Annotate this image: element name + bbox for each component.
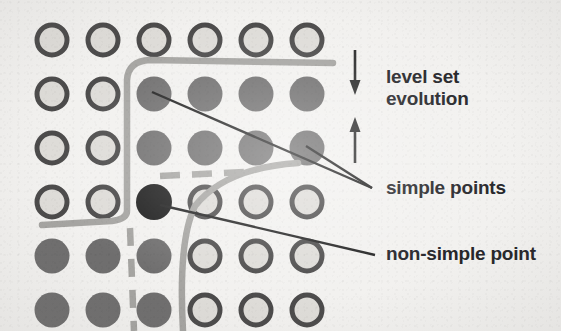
arrow-down-icon — [350, 50, 361, 95]
grid-point-open — [88, 187, 118, 217]
grid-point-filled — [137, 239, 172, 274]
grid-point-filled — [188, 77, 223, 112]
grid-point-open — [292, 241, 322, 271]
grid-point-nonsimple — [136, 184, 172, 220]
grid-point-open — [241, 241, 271, 271]
grid-point-open — [88, 133, 118, 163]
grid-point-open — [241, 187, 271, 217]
grid-point-filled — [86, 239, 121, 274]
grid-point-open — [139, 25, 169, 55]
grid-point-open — [292, 187, 322, 217]
label-simple-points: simple points — [386, 177, 506, 199]
leader-line-simple-point-b — [306, 146, 372, 188]
grid-point-filled — [35, 239, 70, 274]
grid-point-open — [241, 25, 271, 55]
grid-point-filled — [239, 131, 274, 166]
grid-point-open — [241, 295, 271, 325]
grid-point-filled — [137, 293, 172, 328]
grid-point-open — [37, 25, 67, 55]
grid-point-open — [190, 25, 220, 55]
grid-point-open — [292, 295, 322, 325]
arrow-up-icon — [350, 117, 361, 163]
grid-point-filled — [188, 131, 223, 166]
grid-point-filled — [35, 293, 70, 328]
grid-point-open — [88, 25, 118, 55]
grid-point-filled — [86, 293, 121, 328]
figure-graphics — [0, 0, 561, 331]
grid-point-open — [190, 295, 220, 325]
grid-point-open — [37, 133, 67, 163]
grid-point-open — [292, 25, 322, 55]
grid-point-filled — [290, 77, 325, 112]
evolution-arrows — [350, 50, 361, 163]
label-non-simple-point: non-simple point — [386, 243, 536, 265]
label-level-set-evolution: level set evolution — [386, 66, 469, 110]
figure-canvas: level set evolution simple points non-si… — [0, 0, 561, 331]
level-set-curve-dashed-vertical — [130, 228, 134, 331]
grid-point-open — [88, 79, 118, 109]
level-set-curve-dashed-horizontal — [160, 172, 245, 176]
grid-point-open — [37, 187, 67, 217]
grid-point-filled — [239, 77, 274, 112]
grid-point-open — [190, 241, 220, 271]
grid-point-open — [37, 79, 67, 109]
level-set-curves — [42, 60, 333, 331]
grid-point-filled — [137, 131, 172, 166]
